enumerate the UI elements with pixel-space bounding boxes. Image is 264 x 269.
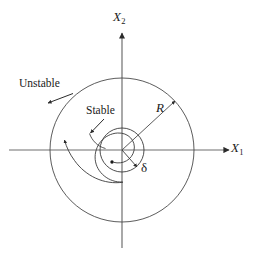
unstable-annotation-label: Unstable	[19, 78, 60, 90]
stable-annotation-label: Stable	[86, 105, 115, 117]
radius-delta-label: δ	[141, 161, 147, 174]
axis-label-x2: X2	[113, 10, 125, 23]
stable-annotation-arrow	[91, 119, 105, 133]
radius-R-arrow	[122, 101, 175, 150]
diagram-canvas	[0, 0, 264, 269]
axis-label-x1: X1	[231, 141, 243, 154]
stability-diagram-figure: X2 X1 R δ Unstable Stable	[0, 0, 264, 269]
radius-R-label: R	[156, 101, 164, 114]
